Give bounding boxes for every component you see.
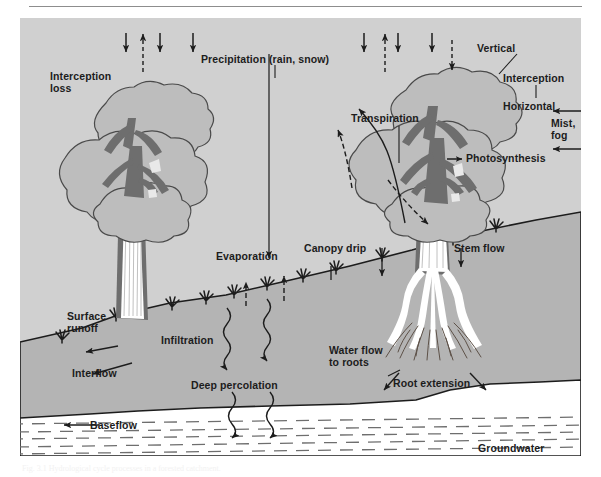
label-interflow: Interflow — [72, 367, 117, 379]
figure-page: Interception loss Precipitation (rain, s… — [0, 0, 601, 477]
label-vertical: Vertical — [477, 42, 515, 54]
label-water-flow-to-roots: Water flow to roots — [329, 344, 383, 368]
label-evaporation: Evaporation — [216, 250, 278, 262]
label-mist-fog: Mist, fog — [551, 117, 575, 141]
label-deep-percolation: Deep percolation — [191, 379, 278, 391]
label-interception-loss: Interception loss — [50, 70, 111, 94]
hydrological-cycle-figure: Interception loss Precipitation (rain, s… — [20, 18, 581, 456]
label-canopy-drip: Canopy drip — [304, 242, 366, 254]
page-top-rule — [29, 6, 582, 7]
label-interception-right: Interception — [503, 72, 564, 84]
label-transpiration: Transpiration — [351, 112, 419, 124]
label-infiltration: Infiltration — [161, 334, 214, 346]
label-horizontal: Horizontal — [503, 100, 555, 112]
label-root-extension: Root extension — [393, 377, 470, 389]
label-stem-flow: Stem flow — [454, 242, 505, 254]
label-baseflow: Baseflow — [90, 419, 137, 431]
label-photosynthesis: Photosynthesis — [466, 152, 546, 164]
label-surface-runoff: Surface runoff — [67, 310, 106, 334]
label-groundwater: Groundwater — [478, 442, 544, 454]
figure-caption: Fig. 3.1 Hydrological cycle processes in… — [22, 464, 562, 474]
label-precipitation: Precipitation (rain, snow) — [201, 53, 329, 65]
